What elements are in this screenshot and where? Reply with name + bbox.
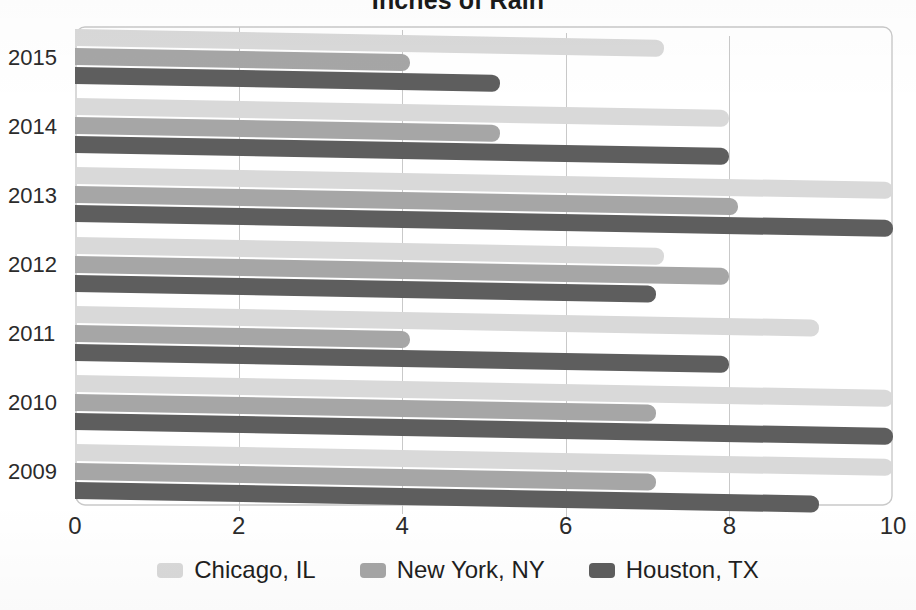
bar-group-2013 — [75, 167, 893, 237]
chart-plot-skew-wrapper — [75, 24, 893, 523]
year-label-2015: 2015 — [8, 45, 68, 71]
x-tick-8: 8 — [709, 512, 749, 540]
x-tick-2: 2 — [219, 512, 259, 540]
legend-swatch-chicago-icon — [157, 563, 183, 578]
legend-item-chicago[interactable]: Chicago, IL — [157, 556, 315, 584]
x-tick-6: 6 — [546, 512, 586, 540]
bar-group-2010 — [75, 375, 893, 445]
bars-container — [75, 24, 893, 39]
legend-swatch-newyork-icon — [360, 563, 386, 578]
legend-label-houston: Houston, TX — [626, 556, 759, 584]
year-label-2013: 2013 — [8, 183, 68, 209]
bar-group-2012 — [75, 237, 893, 307]
x-tick-10: 10 — [873, 512, 913, 540]
plot-area — [75, 24, 893, 508]
year-label-2012: 2012 — [8, 252, 68, 278]
bar-group-2015 — [75, 29, 893, 99]
x-tick-4: 4 — [382, 512, 422, 540]
x-tick-0: 0 — [55, 512, 95, 540]
legend-label-chicago: Chicago, IL — [194, 556, 315, 584]
chart-title: Inches of Rain — [0, 0, 916, 13]
legend-swatch-houston-icon — [589, 563, 615, 578]
bar-group-2011 — [75, 306, 893, 376]
legend-item-newyork[interactable]: New York, NY — [360, 556, 545, 584]
bar-group-2014 — [75, 98, 893, 168]
year-label-2011: 2011 — [8, 321, 68, 347]
legend-item-houston[interactable]: Houston, TX — [589, 556, 759, 584]
bar-group-2009 — [75, 444, 893, 514]
year-label-2014: 2014 — [8, 114, 68, 140]
legend-label-newyork: New York, NY — [397, 556, 545, 584]
year-label-2009: 2009 — [8, 459, 68, 485]
bar-2015-houston[interactable] — [75, 67, 500, 92]
year-label-2010: 2010 — [8, 390, 68, 416]
chart-legend: Chicago, ILNew York, NYHouston, TX — [0, 556, 916, 584]
